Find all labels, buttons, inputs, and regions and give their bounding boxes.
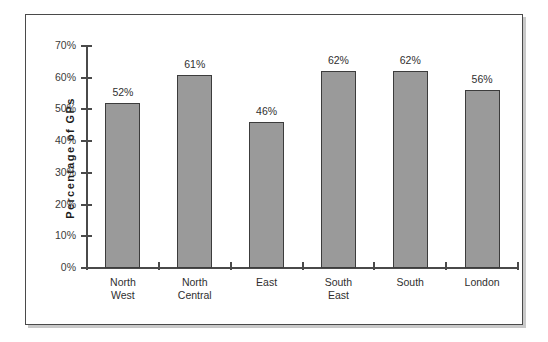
- x-category-label: South: [374, 276, 446, 289]
- bar-value-label: 56%: [452, 74, 512, 85]
- y-tick-mark: [81, 140, 92, 142]
- bar-chart-figure: Percentage of GPs 0%10%20%30%40%50%60%70…: [0, 0, 548, 342]
- x-tick-mark: [230, 262, 232, 270]
- bar[interactable]: [177, 75, 212, 268]
- bar-value-label: 52%: [93, 87, 153, 98]
- y-axis-title: Percentage of GPs: [64, 58, 76, 258]
- bar-value-label: 62%: [308, 55, 368, 66]
- y-tick-label-wrap: 40%: [32, 135, 76, 145]
- x-tick-mark: [86, 262, 88, 270]
- y-tick-mark: [81, 235, 92, 237]
- x-tick-mark: [158, 262, 160, 270]
- y-tick-label-wrap: 70%: [32, 40, 76, 50]
- x-category-label: East: [231, 276, 303, 289]
- bar-value-label: 62%: [380, 55, 440, 66]
- plot-area: Percentage of GPs 0%10%20%30%40%50%60%70…: [0, 0, 548, 342]
- y-tick-label: 20%: [32, 199, 76, 209]
- bar[interactable]: [393, 71, 428, 268]
- bar[interactable]: [249, 122, 284, 268]
- x-category-label: North West: [87, 276, 159, 301]
- x-tick-mark: [517, 262, 519, 270]
- y-tick-mark: [81, 108, 92, 110]
- y-tick-mark: [81, 45, 92, 47]
- x-category-label: North Central: [159, 276, 231, 301]
- bar[interactable]: [105, 103, 140, 268]
- y-tick-label: 70%: [32, 40, 76, 50]
- x-category-label: South East: [302, 276, 374, 301]
- y-tick-label: 50%: [32, 103, 76, 113]
- bar-value-label: 46%: [237, 106, 297, 117]
- y-tick-label-wrap: 60%: [32, 72, 76, 82]
- bar-value-label: 61%: [165, 59, 225, 70]
- y-tick-label-wrap: 50%: [32, 103, 76, 113]
- y-tick-label: 30%: [32, 167, 76, 177]
- y-tick-label: 10%: [32, 230, 76, 240]
- x-tick-mark: [445, 262, 447, 270]
- y-tick-label-wrap: 10%: [32, 230, 76, 240]
- y-tick-mark: [81, 204, 92, 206]
- y-tick-label: 60%: [32, 72, 76, 82]
- x-tick-mark: [373, 262, 375, 270]
- y-tick-label-wrap: 30%: [32, 167, 76, 177]
- bar[interactable]: [321, 71, 356, 268]
- y-tick-mark: [81, 77, 92, 79]
- y-tick-label-wrap: 0%: [32, 262, 76, 272]
- y-tick-label-wrap: 20%: [32, 199, 76, 209]
- x-category-label: London: [446, 276, 518, 289]
- bar[interactable]: [465, 90, 500, 268]
- y-tick-mark: [81, 172, 92, 174]
- y-tick-label: 0%: [32, 262, 76, 272]
- x-tick-mark: [302, 262, 304, 270]
- y-tick-label: 40%: [32, 135, 76, 145]
